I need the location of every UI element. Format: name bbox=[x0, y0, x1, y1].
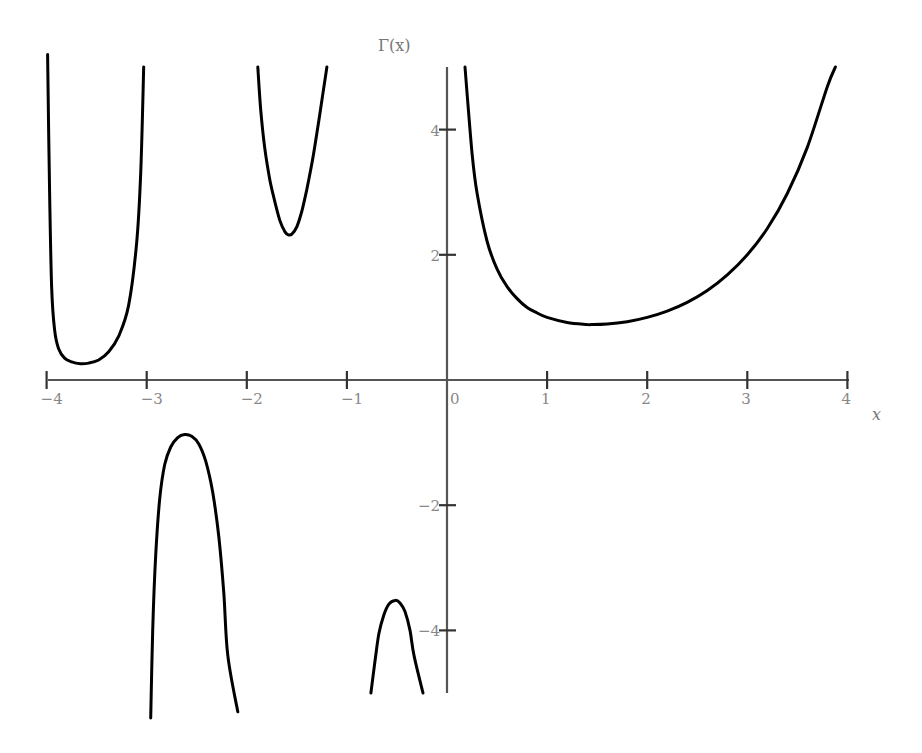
y-axis-title: Γ(x) bbox=[378, 36, 411, 55]
y-tick-label: 2 bbox=[430, 247, 440, 265]
gamma-branch-2 bbox=[151, 434, 238, 718]
x-ticks: −4−3−2−101234 bbox=[41, 371, 851, 408]
gamma-branch-1 bbox=[48, 55, 144, 364]
gamma-curves bbox=[48, 55, 836, 719]
y-tick-label: −4 bbox=[418, 622, 440, 640]
x-tick-label: −3 bbox=[141, 390, 163, 408]
x-tick-label: 2 bbox=[641, 390, 651, 408]
x-tick-label: 3 bbox=[741, 390, 751, 408]
x-tick-label: −2 bbox=[241, 390, 263, 408]
x-tick-label: 4 bbox=[841, 390, 851, 408]
x-axis-title: x bbox=[872, 405, 881, 424]
gamma-branch-3 bbox=[258, 67, 327, 235]
x-tick-label: 1 bbox=[541, 390, 551, 408]
y-tick-label: −2 bbox=[418, 497, 440, 515]
x-tick-label: −4 bbox=[41, 390, 63, 408]
y-tick-label: 4 bbox=[430, 122, 440, 140]
gamma-branch-4 bbox=[371, 600, 423, 693]
x-tick-label: −1 bbox=[341, 390, 363, 408]
gamma-function-plot: −4−3−2−101234 −4−224 Γ(x) x bbox=[0, 0, 922, 753]
gamma-branch-5 bbox=[465, 67, 835, 325]
x-tick-label: 0 bbox=[450, 390, 460, 408]
